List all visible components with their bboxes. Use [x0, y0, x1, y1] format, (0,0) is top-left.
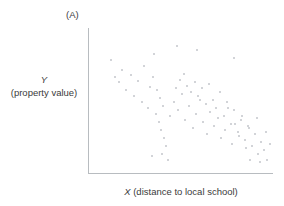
y-axis-unit: (property value): [2, 87, 86, 100]
scatter-point: [118, 81, 120, 83]
scatter-point: [153, 53, 155, 55]
scatter-point: [183, 73, 185, 75]
x-axis-label: X (distance to local school): [89, 186, 273, 197]
scatter-point: [233, 109, 235, 111]
scatter-point: [199, 99, 201, 101]
scatter-point: [161, 153, 163, 155]
y-axis-symbol: Y: [2, 74, 86, 87]
scatter-point: [206, 133, 208, 135]
scatter-point: [165, 145, 167, 147]
scatter-point: [212, 99, 214, 101]
scatter-point: [220, 137, 222, 139]
scatter-point: [158, 121, 160, 123]
scatter-point: [265, 131, 267, 133]
scatter-point: [151, 155, 153, 157]
plot-area: [89, 28, 273, 173]
scatter-point: [241, 115, 243, 117]
scatter-point: [247, 125, 249, 127]
x-axis-unit: (distance to local school): [131, 186, 238, 197]
scatter-point: [257, 153, 259, 155]
scatter-point: [169, 115, 171, 117]
scatter-point: [162, 105, 164, 107]
scatter-point: [240, 119, 242, 121]
scatter-point: [251, 145, 253, 147]
scatter-point: [114, 76, 116, 78]
scatter-point: [133, 95, 135, 97]
scatter-point: [159, 97, 161, 99]
scatter-point: [219, 91, 221, 93]
scatter-point: [190, 91, 192, 93]
x-axis-line: [88, 173, 273, 174]
scatter-point: [147, 107, 149, 109]
scatter-point: [256, 117, 258, 119]
scatter-point: [121, 69, 123, 71]
scatter-point: [226, 101, 228, 103]
y-axis-label: Y (property value): [2, 74, 86, 99]
scatter-point: [209, 111, 211, 113]
scatter-point: [152, 76, 154, 78]
scatter-point: [195, 113, 197, 115]
panel-label: (A): [66, 9, 96, 21]
scatter-point: [213, 125, 215, 127]
scatter-point: [249, 159, 251, 161]
scatter-point: [201, 87, 203, 89]
scatter-point: [155, 113, 157, 115]
scatter-point: [197, 95, 199, 97]
scatter-point: [130, 74, 132, 76]
scatter-point: [231, 143, 233, 145]
scatter-point: [143, 65, 145, 67]
scatter-point: [177, 109, 179, 111]
scatter-point: [167, 159, 169, 161]
scatter-point: [263, 149, 265, 151]
scatter-point: [266, 159, 268, 161]
scatter-point: [192, 127, 194, 129]
scatter-point: [137, 80, 139, 82]
scatter-point: [160, 129, 162, 131]
scatter-point: [234, 123, 236, 125]
scatter-point: [224, 129, 226, 131]
scatter-point: [110, 59, 112, 61]
scatter-point: [233, 57, 235, 59]
scatter-point: [149, 86, 151, 88]
scatter-point: [244, 139, 246, 141]
scatter-point: [227, 107, 229, 109]
scatter-point: [248, 127, 250, 129]
scatter-point: [208, 83, 210, 85]
scatter-point: [230, 123, 232, 125]
scatter-point: [196, 49, 198, 51]
scatter-point: [194, 81, 196, 83]
scatter-point: [205, 103, 207, 105]
scatter-point: [202, 121, 204, 123]
scatter-point: [176, 45, 178, 47]
scatter-point: [163, 137, 165, 139]
scatter-point: [238, 135, 240, 137]
scatter-point: [188, 105, 190, 107]
scatter-point: [141, 101, 143, 103]
scatter-point: [215, 107, 217, 109]
scatter-point: [269, 143, 271, 145]
scatter-point: [259, 161, 261, 163]
scatter-point: [186, 85, 188, 87]
scatter-point: [223, 115, 225, 117]
scatter-point: [217, 117, 219, 119]
scatter-plot-figure: (A) Y (property value) X (distance to lo…: [0, 0, 284, 206]
scatter-point: [156, 89, 158, 91]
scatter-point: [237, 131, 239, 133]
scatter-point: [179, 79, 181, 81]
scatter-point: [173, 101, 175, 103]
scatter-point: [245, 147, 247, 149]
scatter-point: [181, 93, 183, 95]
scatter-point: [254, 133, 256, 135]
scatter-point: [184, 119, 186, 121]
scatter-point: [260, 141, 262, 143]
scatter-point: [125, 89, 127, 91]
scatter-point: [175, 87, 177, 89]
